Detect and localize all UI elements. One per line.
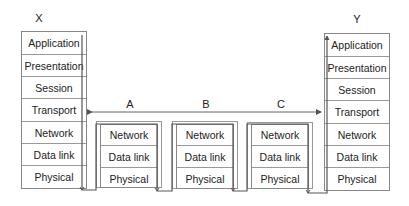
data-path: [82, 35, 327, 193]
up-arrow-y: [325, 36, 329, 40]
connection-lines: [0, 0, 409, 206]
